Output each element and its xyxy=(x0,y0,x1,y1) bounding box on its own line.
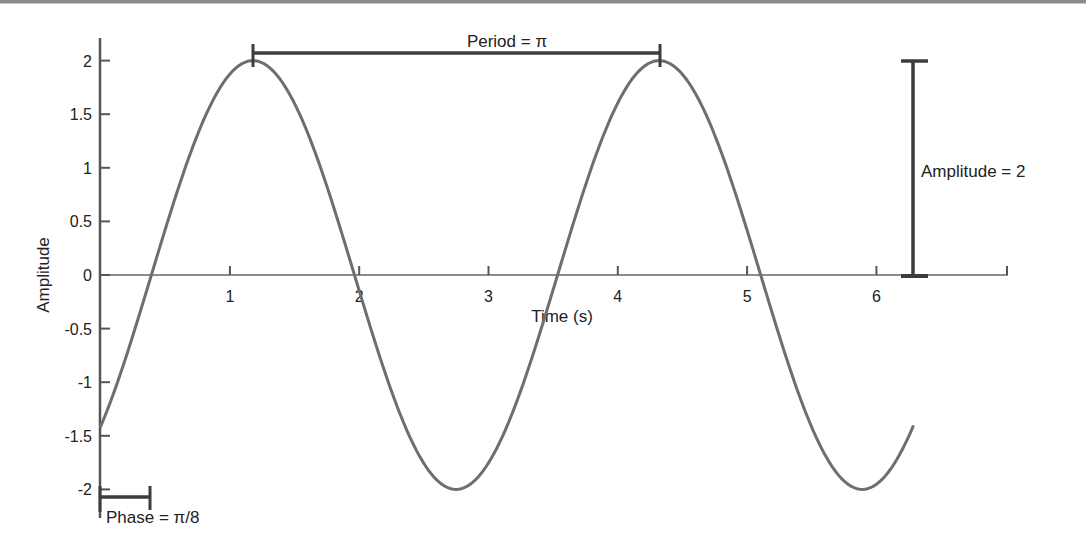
x-tick-label: 6 xyxy=(872,288,881,305)
x-tick-label: 5 xyxy=(743,288,752,305)
y-tick-label: 2 xyxy=(83,53,92,70)
y-ticks: 21.510.50-0.5-1-1.5-2 xyxy=(64,53,110,499)
x-tick-label: 4 xyxy=(613,288,622,305)
y-tick-label: 1.5 xyxy=(70,106,92,123)
y-tick-label: 0.5 xyxy=(70,213,92,230)
period-bracket xyxy=(253,44,660,67)
sine-wave-chart: 21.510.50-0.5-1-1.5-2 123456 Time (s) Am… xyxy=(0,0,1086,554)
phase-label: Phase = π/8 xyxy=(106,508,199,527)
y-tick-label: -1 xyxy=(78,374,92,391)
period-label: Period = π xyxy=(467,32,547,51)
y-tick-label: 1 xyxy=(83,160,92,177)
x-axis-title: Time (s) xyxy=(531,307,593,326)
y-axis-title: Amplitude xyxy=(34,237,53,313)
x-tick-label: 3 xyxy=(484,288,493,305)
x-tick-label: 1 xyxy=(225,288,234,305)
y-tick-label: -0.5 xyxy=(64,321,92,338)
axes xyxy=(100,38,1008,518)
amplitude-label: Amplitude = 2 xyxy=(921,162,1025,181)
y-tick-label: 0 xyxy=(83,267,92,284)
y-tick-label: -1.5 xyxy=(64,428,92,445)
y-tick-label: -2 xyxy=(78,481,92,498)
